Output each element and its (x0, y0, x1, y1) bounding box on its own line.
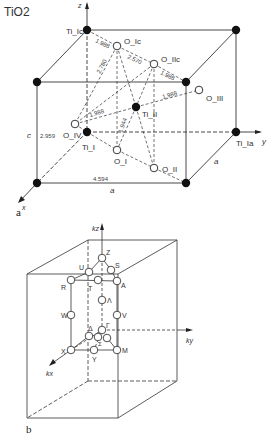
label-T: T (88, 285, 93, 292)
point-Sigma (94, 333, 102, 341)
dim-c-label: c (27, 131, 31, 140)
symmetry-points (67, 254, 121, 354)
ti-atom-Ic (83, 26, 91, 34)
axis-kz-label: kz (92, 225, 100, 232)
label-V: V (122, 312, 127, 319)
label-W: W (61, 312, 68, 319)
point-Gamma (98, 326, 106, 334)
label-ti-ia: Ti_Ia (236, 139, 254, 148)
label-Sigma: Σ (98, 341, 102, 347)
axis-ky-label: ky (186, 337, 194, 345)
point-V (113, 311, 121, 319)
label-ti-ic: Ti_Ic (66, 27, 83, 36)
label-S: S (115, 262, 120, 269)
point-A (113, 277, 121, 285)
dim-a-label: a (110, 186, 115, 195)
structure-title: TiO2 (4, 5, 30, 19)
axis-z-label: z (77, 2, 82, 9)
bond-length-6: 1.944 (117, 117, 128, 134)
label-o-iii: O_III (206, 94, 223, 103)
ti-atom-Ia (232, 128, 240, 136)
point-Sigma-2 (103, 334, 111, 342)
point-Z (98, 254, 106, 262)
point-Delta (85, 332, 93, 340)
o-atom-I (113, 146, 121, 154)
bond-length-1: 1.988 (95, 38, 112, 50)
label-o-iic: O_IIc (161, 55, 180, 64)
point-R (67, 276, 75, 284)
point-M (113, 346, 121, 354)
dim-a-value: 4.594 (93, 176, 109, 182)
o-atom-III (195, 86, 203, 94)
label-A: A (121, 282, 126, 289)
panel-a-crystal-structure (18, 2, 262, 203)
label-Lambda: Λ (107, 297, 112, 304)
point-W (67, 311, 75, 319)
bond-length-5: 1.988 (162, 90, 179, 100)
panel-a-label: a (16, 206, 21, 218)
label-M: M (122, 347, 128, 354)
label-Delta: Δ (88, 325, 93, 332)
point-T (94, 276, 102, 284)
o-atom-IV (71, 120, 79, 128)
ti-atoms (33, 26, 240, 187)
bond-length-7: 1.988 (89, 108, 106, 118)
axis-y-label: y (261, 137, 267, 146)
label-Y: Y (92, 356, 97, 363)
point-Lambda (98, 296, 106, 304)
point-X (67, 346, 75, 354)
label-U: U (79, 264, 84, 271)
o-atom-Ic (113, 42, 121, 50)
label-o-ic: O_Ic (124, 37, 141, 46)
label-ti-i: Ti_I (82, 143, 95, 152)
label-o-i: O_I (114, 157, 127, 166)
label-o-iv: O_IV (63, 131, 82, 140)
axis-kx-label: kx (46, 370, 54, 377)
label-ti-ii: Ti_II (142, 110, 157, 119)
point-Y (90, 346, 98, 354)
label-R: R (61, 284, 66, 291)
label-Z: Z (106, 249, 111, 256)
ti-atom-II (132, 103, 140, 111)
bond-length-3: 2.570 (127, 54, 144, 66)
ti-atom-I (83, 128, 91, 136)
dim-a-side-label: a (214, 157, 219, 166)
panel-b-label: b (26, 423, 32, 435)
label-Gamma: Γ (106, 322, 110, 329)
label-X: X (61, 348, 66, 355)
point-S (107, 266, 115, 274)
o-atom-II (150, 164, 158, 172)
point-U (85, 268, 93, 276)
o-atom-IIc (150, 60, 158, 68)
bond-length-4: 1.988 (160, 70, 177, 82)
axis-x-label: x (21, 204, 26, 211)
diagram-canvas: TiO2 z y x Ti_Ic O_Ic O_IIc O_III O_IV T… (0, 0, 277, 441)
dim-c-value: 2.959 (40, 133, 56, 139)
label-o-ii: O_II (162, 165, 177, 174)
